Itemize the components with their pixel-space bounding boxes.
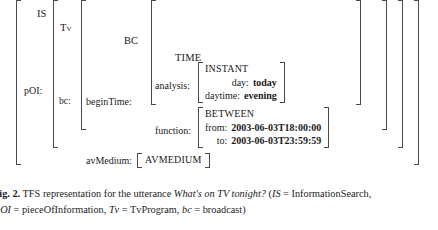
caption-utterance: What's on TV tonight? [174,188,266,199]
attribute-label-day: day: [232,76,249,89]
value-to: 2003-06-03T23:59:59 [231,134,321,147]
bracket-open-bc [81,0,86,130]
bracket-close-tv [398,0,403,148]
feature-row-day: day: today [205,76,277,89]
caption-abbr-tv-expansion: = TvProgram, [119,204,182,215]
bracket-close-between [324,107,329,148]
attribute-label-to: to: [217,134,228,147]
bracket-close-time [356,0,361,105]
bracket-open-between [198,107,203,148]
caption-line-2: pOI = pieceOfInformation, Tv = TvProgram… [0,202,438,218]
type-name-avmedium: AVMEDIUM [145,154,201,167]
caption-abbr-bc-symbol: bc [182,204,192,215]
type-name-tv: Tv [60,22,72,34]
bracket-open-tv [53,0,58,148]
bracket-open-is [16,0,21,165]
figure-caption: Fig. 2. TFS representation for the utter… [0,186,438,218]
attribute-label-daytime: daytime: [205,89,240,102]
bracket-open-instant [198,62,203,103]
attribute-label-analysis: analysis: [155,80,190,91]
feature-row-to: to: 2003-06-03T23:59:59 [205,134,321,147]
type-name-instant: INSTANT [205,63,277,76]
attribute-label-begintime: beginTime: [86,96,132,107]
attribute-label-bc: bc: [59,96,71,106]
attribute-label-avmedium: avMedium: [86,155,132,166]
attribute-label-poi: pOI: [24,85,42,96]
caption-abbr-poi-symbol: pOI [0,204,11,215]
value-from: 2003-06-03T18:00:00 [231,121,321,134]
feature-row-daytime: daytime: evening [205,89,277,102]
feature-block-instant: INSTANT day: today daytime: evening [198,62,285,103]
attribute-label-function: function: [155,125,191,136]
feature-row-avmedium: avMedium: AVMEDIUM [86,153,210,168]
caption-figure-label: Fig. 2. [0,188,20,199]
attribute-label-from: from: [205,121,227,134]
type-name-between: BETWEEN [205,108,321,121]
caption-line-1: Fig. 2. TFS representation for the utter… [0,186,438,202]
bracket-close-is [414,0,419,165]
caption-abbr-bc-expansion: = broadcast) [192,204,246,215]
feature-row-from: from: 2003-06-03T18:00:00 [205,121,321,134]
bracket-close-avmedium [205,153,210,168]
caption-abbr-is-symbol: IS [272,188,281,199]
caption-abbr-poi-expansion: = pieceOfInformation, [11,204,109,215]
bracket-open-avmedium [137,153,142,168]
bracket-close-instant [280,62,285,103]
feature-block-avmedium: AVMEDIUM [137,153,209,168]
value-daytime: evening [244,89,277,102]
caption-text-pre: TFS representation for the utterance [20,188,174,199]
caption-abbr-is-expansion: = InformationSearch, [281,188,372,199]
type-name-is: IS [37,8,46,20]
value-day: today [253,76,277,89]
feature-block-between: BETWEEN from: 2003-06-03T18:00:00 to: 20… [198,107,329,148]
caption-abbr-tv-symbol: Tv [109,204,119,215]
tfs-diagram: IS Tv BC TIME pOI: bc: beginTime: analys… [0,0,438,182]
bracket-close-bc [382,0,387,130]
type-name-bc: BC [124,35,138,47]
